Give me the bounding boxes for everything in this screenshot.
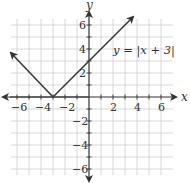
y-tick-label: −6 xyxy=(72,163,88,176)
y-tick-label: 4 xyxy=(79,43,86,56)
y-tick-label: 6 xyxy=(79,19,86,32)
x-tick-label: −4 xyxy=(35,101,51,114)
y-tick-label: −2 xyxy=(72,115,88,128)
absolute-value-graph: x y −6 −4 −2 2 4 6 2 4 6 −2 −4 −6 y = |x… xyxy=(0,0,190,183)
x-tick-label: −6 xyxy=(11,101,27,114)
x-tick-label: 6 xyxy=(158,101,165,114)
x-tick-label: 4 xyxy=(134,101,141,114)
x-tick-label: 2 xyxy=(110,101,117,114)
x-axis-label: x xyxy=(181,90,188,104)
y-tick-label: −4 xyxy=(72,139,88,152)
x-tick-label: −2 xyxy=(59,101,75,114)
y-axis-label: y xyxy=(85,0,93,12)
function-label: y = |x + 3| xyxy=(112,43,175,58)
